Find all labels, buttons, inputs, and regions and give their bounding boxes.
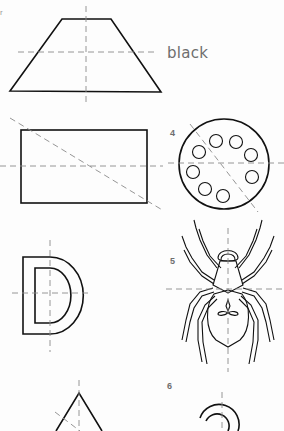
color-label-black: black [167,44,208,62]
mirror-lines [0,6,284,431]
symmetry-drawings [0,0,284,431]
circle-with-dots-shape [179,119,269,209]
figure-number-5: 5 [170,256,175,266]
figure-number-4: 4 [170,128,175,138]
letter-d-shape [23,257,83,334]
trapezoid-shape [10,19,161,92]
figure-number-6: 6 [167,381,172,391]
rectangle-shape [21,130,147,203]
worksheet-page: r [0,0,284,431]
arc-hook-shape [200,404,239,431]
